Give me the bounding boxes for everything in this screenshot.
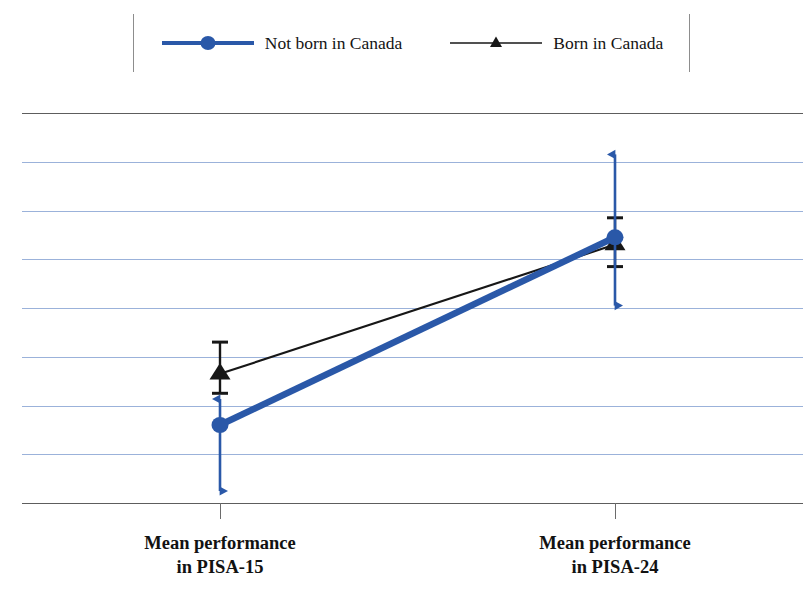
legend-item-not-born-in-canada[interactable]: Not born in Canada xyxy=(160,33,403,54)
legend-label-born-in-canada: Born in Canada xyxy=(553,33,663,54)
x-category-line2: in PISA-15 xyxy=(70,555,370,579)
circle-marker-icon xyxy=(160,34,256,52)
chart-figure: Mean reading performance in PISA-15 and … xyxy=(0,0,810,589)
x-category-line1: Mean performance xyxy=(70,531,370,555)
data-point-not-born-pisa-24 xyxy=(607,229,624,245)
x-tick-pisa-15 xyxy=(220,503,221,519)
line-not-born-in-canada xyxy=(220,237,615,425)
chart-legend: Not born in Canada Born in Canada xyxy=(133,14,690,72)
data-point-not-born-pisa-15 xyxy=(212,417,229,433)
chart-title-clipped: Mean reading performance in PISA-15 and … xyxy=(0,0,810,4)
series-born-in-canada xyxy=(210,218,626,393)
x-category-line2: in PISA-24 xyxy=(465,555,765,579)
legend-label-not-born-in-canada: Not born in Canada xyxy=(265,33,403,54)
x-category-label-pisa-24: Mean performance in PISA-24 xyxy=(465,531,765,579)
series-not-born-in-canada xyxy=(212,154,624,491)
x-category-label-pisa-15: Mean performance in PISA-15 xyxy=(70,531,370,579)
plot-area: 650 630 610 590 570 550 530 510 490 xyxy=(22,113,803,503)
data-layer xyxy=(22,113,803,503)
y-axis-title: PISA reading scale xyxy=(0,0,1,118)
gridline-490 xyxy=(22,503,803,504)
x-tick-pisa-24 xyxy=(615,503,616,519)
triangle-marker-icon xyxy=(448,34,544,52)
x-category-line1: Mean performance xyxy=(465,531,765,555)
legend-item-born-in-canada[interactable]: Born in Canada xyxy=(448,33,663,54)
